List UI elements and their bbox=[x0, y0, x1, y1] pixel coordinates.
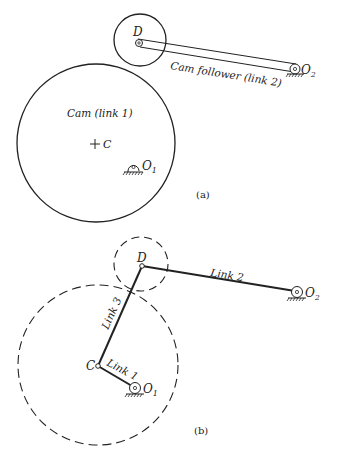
joint-c-icon bbox=[96, 364, 101, 369]
label-d: D bbox=[132, 25, 143, 39]
label-o1-b: O1 bbox=[143, 382, 158, 398]
cam-circle bbox=[17, 64, 175, 222]
figure-a: O2 D Cam follower (link 2) Cam (link 1) … bbox=[17, 14, 316, 222]
label-o2-b: O2 bbox=[305, 286, 320, 302]
caption-b: (b) bbox=[194, 425, 208, 436]
figure-b: D C Link 2 Link 3 Link 1 O1 O2 (b) bbox=[18, 237, 320, 445]
ground-pivot-o2-b-icon bbox=[287, 287, 306, 302]
label-d-b: D bbox=[136, 251, 147, 265]
ground-pivot-o1-icon bbox=[123, 165, 143, 175]
cam-linkage-diagram: O2 D Cam follower (link 2) Cam (link 1) … bbox=[0, 0, 337, 458]
label-o2: O2 bbox=[301, 63, 316, 79]
follower-label: Cam follower (link 2) bbox=[170, 59, 283, 88]
pin-d-icon bbox=[136, 40, 143, 47]
link1-label: Link 1 bbox=[104, 356, 140, 383]
label-c: C bbox=[103, 138, 112, 151]
cam-label: Cam (link 1) bbox=[67, 107, 133, 119]
link3-label: Link 3 bbox=[98, 295, 123, 332]
label-c-b: C bbox=[86, 359, 95, 373]
cam-center-cross-icon bbox=[90, 139, 100, 149]
label-o1: O1 bbox=[142, 159, 157, 175]
caption-a: (a) bbox=[196, 189, 210, 200]
link2-label: Link 2 bbox=[209, 266, 245, 283]
